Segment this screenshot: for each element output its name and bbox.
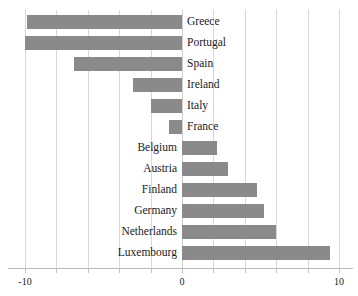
bar-label: France [187,118,218,135]
bar [182,246,330,260]
x-axis-tick [213,268,214,273]
bar-row: Portugal [0,33,358,54]
x-axis-tick [276,268,277,273]
bar-label: Italy [187,97,208,114]
x-axis-tick [88,268,89,273]
x-axis-tick [119,268,120,273]
bar-label: Netherlands [121,223,177,240]
bar-label: Belgium [137,139,177,156]
bar [182,141,217,155]
bar-row: Germany [0,201,358,222]
bar [133,78,182,92]
bar-row: Netherlands [0,222,358,243]
bar [151,99,182,113]
x-axis-tick-label: 0 [180,275,185,288]
bar-row: Spain [0,54,358,75]
bar [182,204,264,218]
x-axis-tick-label: -10 [18,275,31,288]
bar-label: Greece [187,13,220,30]
bar-row: France [0,117,358,138]
bar [182,162,228,176]
x-axis: -10010 [0,268,358,296]
bar [169,120,182,134]
x-axis-tick [151,268,152,273]
x-axis-tick [182,268,183,273]
bar-row: Belgium [0,138,358,159]
bar [182,183,257,197]
bar-row: Ireland [0,75,358,96]
x-axis-tick [245,268,246,273]
bar-label: Austria [143,160,177,177]
bar-label: Germany [134,202,177,219]
bar [182,225,276,239]
bar-row: Finland [0,180,358,201]
x-axis-tick [25,268,26,273]
bar-label: Finland [142,181,177,198]
bar-chart: GreecePortugalSpainIrelandItalyFranceBel… [0,0,358,296]
bar [74,57,182,71]
x-axis-tick [56,268,57,273]
x-axis-tick-label: 10 [334,275,344,288]
bar-row: Luxembourg [0,243,358,264]
x-axis-tick [339,268,340,273]
bar-row: Italy [0,96,358,117]
bar-row: Greece [0,12,358,33]
bar-label: Luxembourg [118,244,177,261]
bar-row: Austria [0,159,358,180]
bar [27,15,182,29]
plot-area: GreecePortugalSpainIrelandItalyFranceBel… [0,0,358,268]
x-axis-tick [308,268,309,273]
bar [25,36,182,50]
bar-label: Portugal [187,34,226,51]
x-axis-line [8,268,353,269]
bar-label: Spain [187,55,213,72]
bar-label: Ireland [187,76,220,93]
